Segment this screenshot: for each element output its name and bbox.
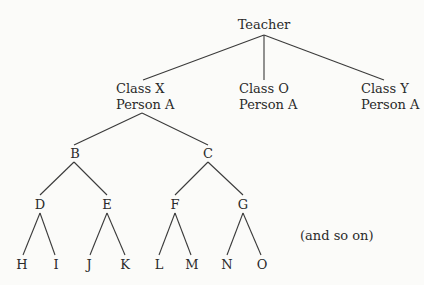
node-k: K	[120, 257, 130, 273]
node-g: G	[238, 197, 248, 213]
continuation-note: (and so on)	[300, 228, 374, 244]
node-i: I	[53, 257, 58, 273]
node-class-x-name: Class X	[116, 81, 174, 97]
node-b: B	[70, 146, 80, 162]
node-j: J	[86, 257, 91, 273]
node-n: N	[221, 257, 232, 273]
node-o: O	[257, 257, 268, 273]
node-class-o: Class O Person A	[239, 81, 297, 113]
node-class-y: Class Y Person A	[361, 81, 419, 113]
node-l: L	[155, 257, 164, 273]
node-m: M	[185, 257, 198, 273]
node-class-o-person: Person A	[239, 97, 297, 113]
node-c: C	[203, 146, 213, 162]
node-class-x-person: Person A	[116, 97, 174, 113]
node-f: F	[170, 197, 179, 213]
node-class-y-person: Person A	[361, 97, 419, 113]
node-class-o-name: Class O	[239, 81, 297, 97]
node-class-y-name: Class Y	[361, 81, 419, 97]
node-class-x: Class X Person A	[116, 81, 174, 113]
node-h: H	[16, 257, 27, 273]
node-e: E	[102, 197, 112, 213]
node-teacher: Teacher	[238, 17, 291, 33]
node-d: D	[35, 197, 45, 213]
